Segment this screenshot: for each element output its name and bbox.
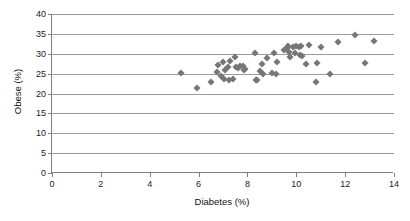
y-tick-mark — [48, 113, 52, 114]
y-axis-title: Obese (%) — [12, 32, 23, 152]
data-point — [334, 38, 341, 45]
x-tick-mark — [247, 173, 248, 177]
data-point — [317, 43, 324, 50]
data-point — [305, 42, 312, 49]
data-point — [312, 79, 319, 86]
data-point — [251, 50, 258, 57]
gridline — [52, 133, 394, 134]
data-point — [371, 37, 378, 44]
y-tick-mark — [48, 34, 52, 35]
x-tick-label: 8 — [232, 180, 262, 189]
data-point — [361, 59, 368, 66]
x-tick-mark — [101, 173, 102, 177]
data-point — [194, 84, 201, 91]
x-tick-label: 10 — [281, 180, 311, 189]
data-point — [327, 70, 334, 77]
data-point — [271, 50, 278, 57]
y-tick-mark — [48, 74, 52, 75]
data-point — [207, 78, 214, 85]
y-tick-mark — [48, 14, 52, 15]
x-tick-mark — [345, 173, 346, 177]
x-tick-label: 6 — [184, 180, 214, 189]
y-tick-mark — [48, 54, 52, 55]
data-point — [178, 69, 185, 76]
x-tick-label: 14 — [379, 180, 409, 189]
gridline — [52, 34, 394, 35]
gridline — [52, 94, 394, 95]
data-point — [303, 61, 310, 68]
data-point — [260, 71, 267, 78]
x-tick-mark — [150, 173, 151, 177]
x-tick-label: 2 — [86, 180, 116, 189]
x-tick-mark — [199, 173, 200, 177]
data-point — [351, 32, 358, 39]
y-tick-mark — [48, 94, 52, 95]
x-tick-label: 12 — [330, 180, 360, 189]
data-point — [314, 59, 321, 66]
x-tick-mark — [52, 173, 53, 177]
scatter-chart: 0510152025303540 02468101214 Obese (%) D… — [0, 0, 410, 221]
data-point — [263, 55, 270, 62]
x-tick-label: 0 — [37, 180, 67, 189]
data-point — [273, 58, 280, 65]
x-tick-label: 4 — [135, 180, 165, 189]
gridline — [52, 153, 394, 154]
y-tick-mark — [48, 133, 52, 134]
y-tick-label: 40 — [6, 10, 46, 19]
gridline — [52, 14, 394, 15]
y-tick-mark — [48, 153, 52, 154]
x-axis-title: Diabetes (%) — [51, 196, 393, 207]
data-point — [272, 70, 279, 77]
x-tick-mark — [394, 173, 395, 177]
y-tick-label: 0 — [6, 169, 46, 178]
x-tick-mark — [296, 173, 297, 177]
gridline — [52, 113, 394, 114]
plot-area: 0510152025303540 02468101214 — [51, 14, 393, 173]
gridline — [52, 54, 394, 55]
